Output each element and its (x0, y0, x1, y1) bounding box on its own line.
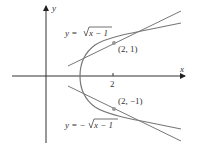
point-upper (112, 41, 116, 45)
x-tick-label: 2 (110, 79, 115, 89)
point-lower (112, 107, 116, 111)
lower-tangent-line (68, 86, 181, 141)
parabola-diagram: y x 2 (2, 1) (2, −1) y = x − 1 y = − x −… (0, 0, 197, 149)
lower-curve-label: y = − x − 1 (64, 119, 118, 130)
point-upper-label: (2, 1) (118, 44, 138, 54)
svg-text:y = −: y = − (64, 120, 86, 130)
point-lower-label: (2, −1) (118, 96, 143, 106)
upper-curve-label: y = x − 1 (64, 27, 112, 38)
svg-text:y =: y = (64, 28, 77, 38)
x-axis-label: x (179, 64, 184, 74)
y-axis-label: y (51, 3, 56, 13)
svg-text:x − 1: x − 1 (93, 120, 113, 130)
svg-text:x − 1: x − 1 (88, 28, 108, 38)
upper-tangent-line (68, 11, 181, 66)
